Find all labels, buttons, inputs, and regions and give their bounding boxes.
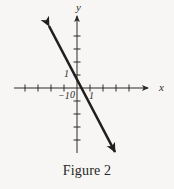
origin-label: 0	[70, 90, 75, 100]
y-axis-label: y	[76, 2, 81, 13]
coordinate-plot	[0, 0, 174, 189]
y-axis-tick-label-negative-one: −1	[58, 91, 70, 101]
x-axis-tick-label-one: 1	[89, 91, 94, 101]
figure-caption: Figure 2	[0, 163, 174, 179]
y-axis-tick-label-one: 1	[64, 69, 69, 79]
figure-container: y x 1 0 −1 1 Figure 2	[0, 0, 174, 189]
x-axis-label: x	[159, 82, 164, 93]
plotted-line	[49, 26, 115, 152]
